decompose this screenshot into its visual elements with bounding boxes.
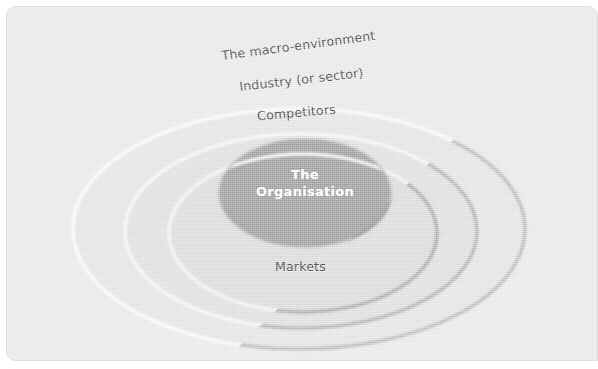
- core-label: The Organisation: [235, 166, 375, 200]
- core-label-line1: The: [235, 166, 375, 183]
- diagram-card: The macro-environment Industry (or secto…: [6, 6, 598, 361]
- diagram-stage: The macro-environment Industry (or secto…: [7, 7, 597, 360]
- core-label-line2: Organisation: [235, 183, 375, 200]
- label-markets: Markets: [275, 259, 326, 274]
